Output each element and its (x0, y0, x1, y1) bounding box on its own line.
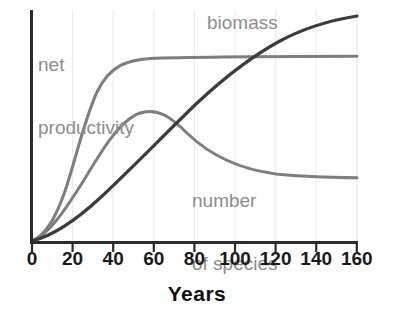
series-label-net-productivity-line1: net (38, 54, 134, 75)
series-label-biomass: biomass (207, 12, 278, 33)
x-tick-label-80: 80 (184, 248, 205, 270)
x-axis-title: Years (0, 282, 394, 306)
series-label-net-productivity-line2: productivity (38, 117, 134, 138)
series-label-net-productivity: net productivity (38, 12, 134, 180)
x-tick-label-120: 120 (260, 248, 292, 270)
x-tick-label-140: 140 (300, 248, 332, 270)
x-tick-label-20: 20 (62, 248, 83, 270)
x-tick-label-40: 40 (103, 248, 124, 270)
x-tick-label-60: 60 (143, 248, 164, 270)
chart-figure: net productivity biomass number of speci… (0, 0, 394, 318)
x-tick-label-160: 160 (341, 248, 373, 270)
x-tick-label-100: 100 (219, 248, 251, 270)
series-label-number-of-species-line1: number (192, 190, 278, 211)
x-tick-label-0: 0 (27, 248, 38, 270)
